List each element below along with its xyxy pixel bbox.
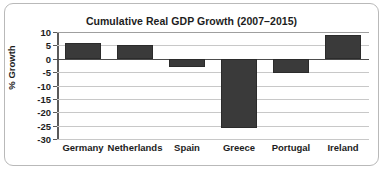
bar-portugal — [273, 59, 309, 74]
bar-greece — [221, 59, 257, 129]
tick-mark — [53, 126, 57, 127]
tick-mark — [53, 72, 57, 73]
gridline — [57, 126, 369, 127]
chart-figure: Cumulative Real GDP Growth (2007–2015) %… — [0, 0, 383, 169]
y-axis-tick-label: -30 — [37, 134, 51, 145]
y-axis-tick-label: -5 — [43, 67, 51, 78]
x-axis-label-ireland: Ireland — [327, 142, 358, 153]
x-axis-label-portugal: Portugal — [272, 142, 311, 153]
gridline — [57, 45, 369, 46]
x-axis-label-spain: Spain — [174, 142, 200, 153]
y-axis-tick-label: -15 — [37, 93, 51, 104]
x-axis-label-germany: Germany — [62, 142, 103, 153]
y-axis-tick-label: 10 — [40, 27, 51, 38]
bar-germany — [65, 43, 101, 59]
gridline — [57, 99, 369, 100]
tick-mark — [53, 59, 57, 60]
chart-title: Cumulative Real GDP Growth (2007–2015) — [0, 15, 383, 27]
bar-ireland — [325, 35, 361, 59]
tick-mark — [53, 86, 57, 87]
tick-mark — [53, 32, 57, 33]
gridline — [57, 32, 369, 33]
y-axis-tick-label: 0 — [46, 53, 51, 64]
bar-spain — [169, 59, 205, 67]
zero-line — [57, 59, 369, 61]
y-axis-tick-label: 5 — [46, 40, 51, 51]
tick-mark — [53, 99, 57, 100]
y-axis-tick-label: -25 — [37, 120, 51, 131]
x-axis-label-greece: Greece — [223, 142, 255, 153]
y-axis-tick-label: -20 — [37, 107, 51, 118]
gridline — [57, 139, 369, 140]
gridline — [57, 112, 369, 113]
plot-area: 1050-5-10-15-20-25-30 GermanyNetherlands… — [57, 32, 369, 139]
tick-mark — [53, 139, 57, 140]
y-axis-tick-label: -10 — [37, 80, 51, 91]
gridline — [57, 86, 369, 87]
bar-netherlands — [117, 45, 153, 58]
y-axis-title: % Growth — [6, 28, 17, 108]
x-axis-label-netherlands: Netherlands — [108, 142, 163, 153]
tick-mark — [53, 45, 57, 46]
tick-mark — [53, 112, 57, 113]
gridline — [57, 72, 369, 73]
